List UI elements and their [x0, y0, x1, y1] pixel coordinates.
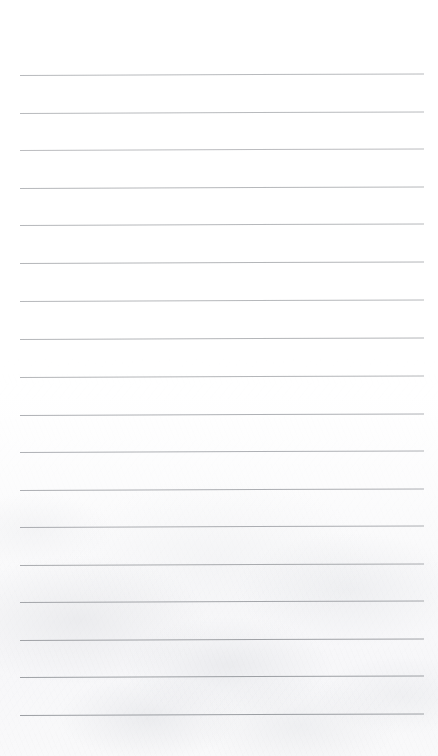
rule-line-17 [20, 675, 424, 678]
rule-line-16 [20, 638, 424, 641]
rule-line-13 [20, 525, 424, 528]
rule-line-12 [20, 488, 424, 491]
scanned-page [0, 0, 438, 756]
rule-line-10 [20, 413, 424, 416]
rule-line-4 [20, 186, 424, 189]
rule-line-8 [20, 337, 424, 340]
rule-line-11 [20, 450, 424, 453]
rule-line-7 [20, 299, 424, 302]
rule-line-15 [20, 600, 424, 603]
rule-line-2 [20, 111, 424, 114]
ruled-lines-layer [0, 0, 438, 756]
rule-line-3 [20, 148, 424, 151]
rule-line-9 [20, 375, 424, 378]
rule-line-5 [20, 223, 424, 226]
rule-line-6 [20, 261, 424, 264]
rule-line-1 [20, 73, 424, 76]
rule-line-18 [20, 713, 424, 716]
rule-line-14 [20, 563, 424, 566]
